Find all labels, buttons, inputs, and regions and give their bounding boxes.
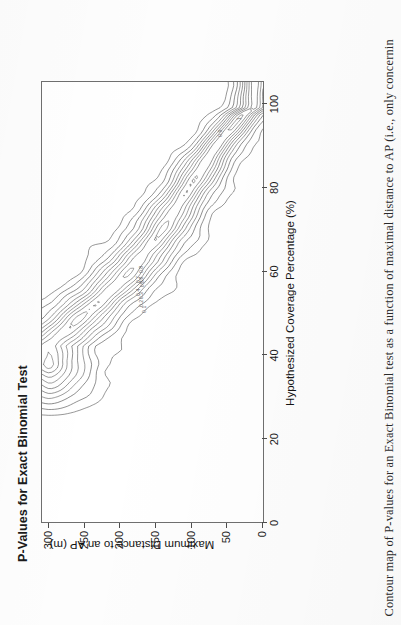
x-tick-label: 80	[268, 181, 280, 193]
contour-line	[97, 301, 99, 302]
y-tick-label: 0	[256, 531, 268, 537]
x-tick	[262, 186, 267, 187]
x-tick-label: 60	[268, 265, 280, 277]
contour-line	[70, 311, 87, 325]
x-tick-label: 100	[268, 94, 280, 112]
contour-line	[42, 82, 240, 324]
y-tick	[226, 523, 227, 528]
x-axis-title: Hypothesized Coverage Percentage (%)	[284, 83, 296, 523]
x-tick-label: 40	[268, 349, 280, 361]
contour-plot-area: 0.10.20.30.40.50.60.70.80.91	[41, 81, 264, 523]
contour-line	[154, 236, 156, 240]
figure-title: P-Values for Exact Binomial Test	[16, 64, 30, 563]
contour-line	[42, 82, 228, 300]
contour-label: 1	[235, 117, 241, 120]
x-tick-label: 20	[268, 433, 280, 445]
scanned-page: P-Values for Exact Binomial Test 0.10.20…	[0, 0, 401, 625]
y-axis-title: Maximum Distance to an AP (m)	[21, 538, 242, 550]
y-tick	[155, 523, 156, 528]
contour-line	[42, 82, 234, 308]
y-tick	[83, 523, 84, 528]
contour-line	[42, 110, 263, 393]
contour-line	[186, 190, 187, 192]
y-tick	[48, 523, 49, 528]
contour-lines: 0.10.20.30.40.50.60.70.80.91	[42, 82, 263, 522]
contour-line	[93, 304, 96, 305]
contour-line	[69, 325, 70, 327]
x-tick	[262, 102, 267, 103]
contour-line	[250, 82, 258, 109]
contour-line	[42, 82, 247, 336]
contour-line	[123, 268, 133, 278]
contour-label: 0.8	[138, 265, 144, 272]
contour-line	[42, 108, 252, 372]
contour-line	[192, 178, 195, 183]
x-tick	[262, 270, 267, 271]
contour-line	[190, 184, 191, 186]
x-tick	[262, 438, 267, 439]
contour-label: 0.2	[138, 299, 144, 306]
contour-line	[42, 128, 263, 415]
y-tick	[190, 523, 191, 528]
contour-line	[183, 194, 184, 195]
contour-line	[42, 115, 263, 404]
figure-stage: P-Values for Exact Binomial Test 0.10.20…	[16, 65, 334, 563]
y-tick	[119, 523, 120, 528]
x-tick	[262, 354, 267, 355]
contour-label: 0.7	[134, 275, 140, 282]
x-tick-label: 0	[268, 519, 280, 525]
figure-caption: Contour map of P-values for an Exact Bin…	[376, 0, 401, 625]
contour-line	[42, 112, 263, 398]
contour-line	[43, 351, 53, 368]
y-tick	[262, 523, 263, 528]
contour-line	[195, 175, 198, 178]
caption-strip: Contour map of P-values for an Exact Bin…	[375, 0, 401, 625]
contour-label: 0.9	[217, 129, 223, 136]
